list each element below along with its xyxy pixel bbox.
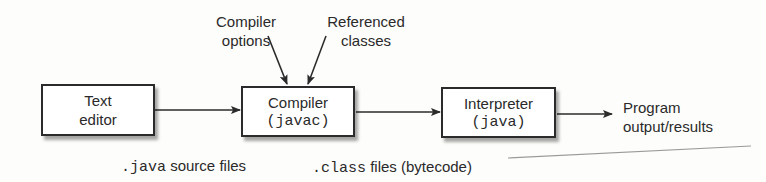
label-class-text: files (bytecode) (370, 158, 472, 175)
node-interpreter-line2: (java) (443, 113, 554, 132)
label-referenced-classes: Referenced classes (316, 12, 416, 50)
node-text-editor-line2: editor (43, 110, 153, 129)
label-class-code: .class (312, 160, 366, 177)
label-class-files: .class files (bytecode) (312, 157, 472, 178)
node-compiler-line1: Compiler (243, 93, 353, 112)
label-java-source-files: .java source files (121, 156, 246, 177)
label-compiler-options: Compiler options (196, 12, 296, 50)
node-text-editor-line1: Text (43, 91, 153, 110)
label-compiler-options-line2: options (196, 31, 296, 50)
label-referenced-classes-line1: Referenced (316, 12, 416, 31)
label-compiler-options-line1: Compiler (196, 12, 296, 31)
label-java-text: source files (170, 157, 246, 174)
node-text-editor: Text editor (41, 84, 155, 136)
label-program-output-line1: Program (623, 98, 713, 117)
label-java-code: .java (121, 159, 166, 176)
label-program-output: Program output/results (623, 98, 713, 136)
decorative-rule (508, 146, 751, 158)
node-interpreter: Interpreter (java) (441, 87, 556, 138)
node-compiler-line2: (javac) (243, 112, 353, 131)
node-compiler: Compiler (javac) (241, 86, 355, 137)
label-program-output-line2: output/results (623, 117, 713, 136)
node-interpreter-line1: Interpreter (443, 94, 554, 113)
label-referenced-classes-line2: classes (316, 31, 416, 50)
